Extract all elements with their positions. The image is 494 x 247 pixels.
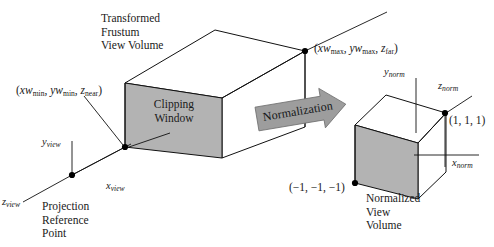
y-view-label: yview: [42, 136, 61, 148]
y-norm-main: y: [384, 66, 389, 77]
max-yw-sub: max: [362, 47, 375, 56]
z-norm-sub: norm: [442, 84, 458, 93]
normalized-caption-line3: Volume: [366, 219, 420, 233]
min-xw-sub: min: [33, 89, 45, 98]
x-norm-sub: norm: [457, 161, 473, 170]
y-view-main: y: [42, 136, 47, 147]
frustum-caption-line2: Frustum: [101, 26, 163, 40]
max-corner-label: (xwmax, ywmax, zfar): [314, 42, 398, 56]
z-norm-axis: [446, 96, 472, 113]
frustum-caption-line1: Transformed: [101, 12, 163, 26]
max-z-sub: far: [386, 47, 394, 56]
clipping-window-label: Clipping Window: [141, 98, 207, 125]
cube-min-label: (−1, −1, −1): [289, 181, 345, 195]
x-view-axis: [72, 144, 131, 175]
max-yw: yw: [349, 42, 362, 54]
x-view-sub: view: [111, 184, 125, 193]
prp-line3: Point: [42, 227, 89, 241]
max-corner-dot: [302, 48, 308, 54]
normalized-volume-caption: Normalized View Volume: [366, 192, 420, 233]
min-corner-dot: [122, 144, 128, 150]
prp-line2: Reference: [42, 214, 89, 228]
clipping-window-line2: Window: [141, 112, 207, 126]
clipping-window-line1: Clipping: [141, 98, 207, 112]
max-close-paren: ): [394, 42, 398, 54]
figure-canvas: .ln{stroke:#111111;stroke-width:1;fill:n…: [0, 0, 494, 247]
min-close-paren: ): [98, 84, 102, 96]
z-norm-label: znorm: [438, 80, 458, 92]
min-yw-sub: min: [63, 89, 75, 98]
max-xw-sub: max: [331, 47, 344, 56]
y-norm-label: ynorm: [384, 66, 405, 78]
prp-line1: Projection: [42, 200, 89, 214]
z-view-label: zview: [2, 196, 20, 208]
prp-dot: [69, 172, 75, 178]
min-xw: xw: [20, 84, 33, 96]
cube-max-dot: [442, 110, 448, 116]
min-corner-label: (xwmin, ywmin, znear): [16, 84, 102, 98]
max-xw: xw: [318, 42, 331, 54]
normalized-caption-line1: Normalized: [366, 192, 420, 206]
normalized-caption-line2: View: [366, 206, 420, 220]
min-corner-leader: [84, 96, 123, 145]
y-view-sub: view: [47, 140, 61, 149]
z-view-sub: view: [6, 200, 20, 209]
x-norm-main: x: [452, 157, 457, 168]
z-view-axis: [23, 175, 72, 202]
cube-max-label: (1, 1, 1): [449, 114, 485, 128]
min-z-sub: near: [85, 89, 98, 98]
max-z: z: [381, 42, 385, 54]
frustum-caption: Transformed Frustum View Volume: [101, 12, 163, 53]
prp-label: Projection Reference Point: [42, 200, 89, 241]
cube-min-dot: [352, 180, 358, 186]
cube-front-face: [355, 125, 418, 199]
cube-right-face: [418, 113, 446, 199]
x-view-main: x: [106, 180, 111, 191]
y-norm-sub: norm: [389, 70, 405, 79]
min-yw: yw: [50, 84, 63, 96]
frustum-caption-line3: View Volume: [101, 39, 163, 53]
x-view-label: xview: [106, 180, 125, 192]
x-norm-label: xnorm: [452, 157, 473, 169]
